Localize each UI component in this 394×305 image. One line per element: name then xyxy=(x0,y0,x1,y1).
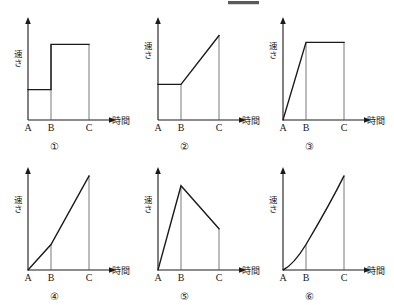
chart-6-number: ⑥ xyxy=(301,291,317,302)
chart-5-x-axis-label: 時間 xyxy=(242,264,260,277)
chart-panel-6: 速さ 時間 A B C ⑥ xyxy=(263,162,394,305)
chart-3-tick-c: C xyxy=(338,122,350,133)
chart-1-tick-b: B xyxy=(45,122,57,133)
chart-5-tick-c: C xyxy=(213,272,225,283)
chart-6-y-axis-label: 速さ xyxy=(267,196,276,214)
chart-6-tick-a: A xyxy=(277,272,289,283)
chart-4-y-axis-label: 速さ xyxy=(12,196,21,214)
worksheet-figure: 速さ 時間 A B C ① 速さ 時間 A B C ② xyxy=(0,0,394,305)
chart-2-tick-c: C xyxy=(213,122,225,133)
chart-panel-2: 速さ 時間 A B C ② xyxy=(138,12,269,164)
chart-3-y-axis-label: 速さ xyxy=(267,42,276,60)
chart-4-number: ④ xyxy=(46,291,62,302)
chart-panel-3: 速さ 時間 A B C ③ xyxy=(263,12,394,164)
chart-1-number: ① xyxy=(46,141,62,152)
chart-panel-4: 速さ 時間 A B C ④ xyxy=(8,162,139,305)
chart-2-plot xyxy=(138,12,269,164)
chart-1-tick-a: A xyxy=(22,122,34,133)
chart-6-x-axis-label: 時間 xyxy=(367,264,385,277)
chart-2-x-axis-label: 時間 xyxy=(242,114,260,127)
chart-1-y-axis-label: 速さ xyxy=(12,50,21,68)
chart-1-tick-c: C xyxy=(83,122,95,133)
chart-grid: 速さ 時間 A B C ① 速さ 時間 A B C ② xyxy=(0,0,394,305)
chart-panel-5: 速さ 時間 A B C ⑤ xyxy=(138,162,269,305)
chart-2-tick-b: B xyxy=(175,122,187,133)
chart-1-x-axis-label: 時間 xyxy=(112,114,130,127)
chart-3-tick-b: B xyxy=(300,122,312,133)
chart-4-tick-b: B xyxy=(45,272,57,283)
chart-6-plot xyxy=(263,162,394,305)
chart-1-plot xyxy=(8,12,139,164)
chart-3-number: ③ xyxy=(301,141,317,152)
chart-4-tick-c: C xyxy=(83,272,95,283)
chart-panel-1: 速さ 時間 A B C ① xyxy=(8,12,139,164)
chart-4-x-axis-label: 時間 xyxy=(112,264,130,277)
chart-3-x-axis-label: 時間 xyxy=(367,114,385,127)
chart-4-plot xyxy=(8,162,139,305)
chart-6-tick-c: C xyxy=(338,272,350,283)
chart-2-tick-a: A xyxy=(152,122,164,133)
chart-5-y-axis-label: 速さ xyxy=(142,196,151,214)
chart-3-plot xyxy=(263,12,394,164)
chart-5-tick-b: B xyxy=(175,272,187,283)
chart-5-plot xyxy=(138,162,269,305)
chart-5-number: ⑤ xyxy=(176,291,192,302)
chart-6-tick-b: B xyxy=(300,272,312,283)
chart-3-tick-a: A xyxy=(277,122,289,133)
chart-4-tick-a: A xyxy=(22,272,34,283)
chart-5-tick-a: A xyxy=(152,272,164,283)
chart-2-number: ② xyxy=(176,141,192,152)
chart-2-y-axis-label: 速さ xyxy=(142,42,151,60)
